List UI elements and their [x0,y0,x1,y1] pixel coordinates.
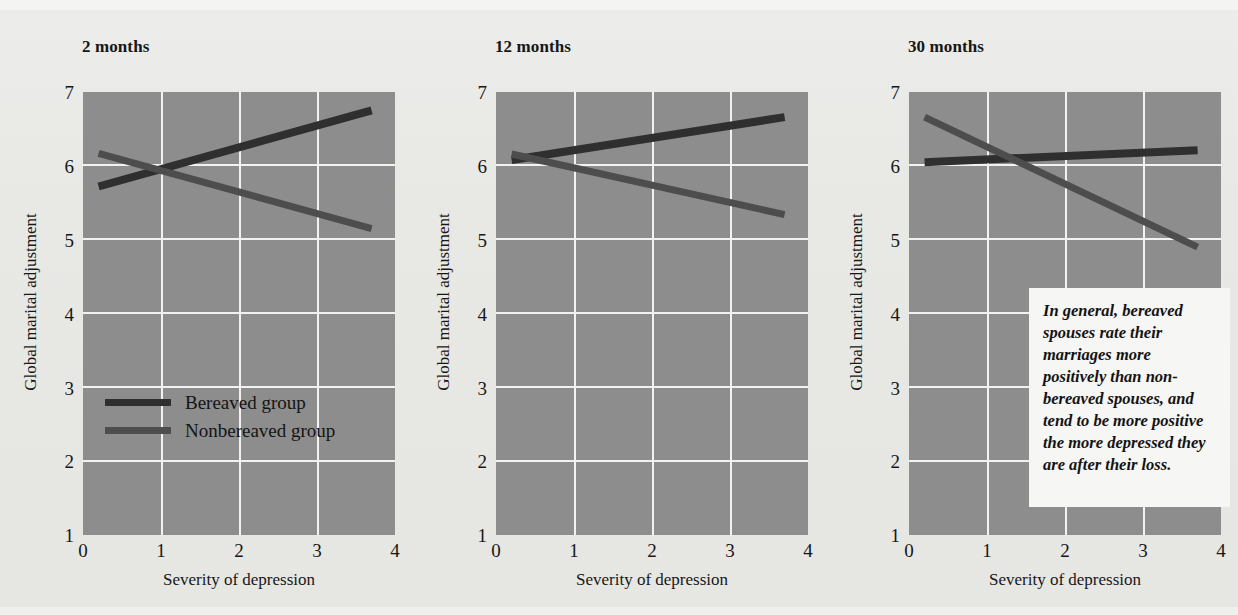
line-bereaved [99,110,372,186]
x-tick-1: 1 [972,541,1002,560]
line-nonbereaved [99,153,372,228]
y-tick-5: 5 [870,231,900,250]
legend-swatch-nonbereaved [105,427,171,434]
y-tick-6: 6 [457,157,487,176]
legend-label-nonbereaved: Nonbereaved group [185,421,335,440]
x-axis-label: Severity of depression [496,570,808,590]
legend: Bereaved group Nonbereaved group [105,388,335,444]
x-axis-label: Severity of depression [83,570,395,590]
y-tick-5: 5 [457,231,487,250]
y-tick-4: 4 [870,305,900,324]
series-lines [83,92,395,535]
x-tick-0: 0 [894,541,924,560]
series-lines [496,92,808,535]
panel-title: 30 months [908,37,984,57]
panel-title: 2 months [82,37,149,57]
x-axis-label: Severity of depression [909,570,1221,590]
line-nonbereaved [925,117,1198,247]
y-tick-2: 2 [457,452,487,471]
x-tick-4: 4 [380,541,410,560]
callout-text: In general, bereaved spouses rate their … [1043,300,1217,476]
x-tick-3: 3 [715,541,745,560]
callout-annotation: In general, bereaved spouses rate their … [1029,288,1230,507]
legend-swatch-bereaved [105,399,171,406]
x-tick-1: 1 [146,541,176,560]
x-tick-3: 3 [1128,541,1158,560]
x-tick-2: 2 [637,541,667,560]
y-tick-7: 7 [457,83,487,102]
y-tick-7: 7 [44,83,74,102]
y-axis-label: Global marital adjustment [434,197,454,407]
line-bereaved [925,150,1198,162]
y-tick-2: 2 [870,452,900,471]
x-tick-4: 4 [1206,541,1236,560]
y-tick-4: 4 [457,305,487,324]
page-bottom-margin [0,607,1238,615]
y-tick-3: 3 [870,379,900,398]
x-tick-3: 3 [302,541,332,560]
y-axis-label: Global marital adjustment [847,197,867,407]
line-bereaved [512,117,785,160]
x-tick-0: 0 [481,541,511,560]
figure-canvas: 2 months Global marital adjustment 7 6 5… [0,0,1238,615]
y-tick-5: 5 [44,231,74,250]
y-tick-6: 6 [44,157,74,176]
plot-area [496,92,808,535]
x-tick-2: 2 [224,541,254,560]
y-tick-3: 3 [457,379,487,398]
plot-area: Bereaved group Nonbereaved group [83,92,395,535]
panel-12-months: 12 months Global marital adjustment 7 6 … [413,0,826,615]
x-tick-4: 4 [793,541,823,560]
y-tick-2: 2 [44,452,74,471]
panel-2-months: 2 months Global marital adjustment 7 6 5… [0,0,413,615]
y-axis-label: Global marital adjustment [21,197,41,407]
x-tick-0: 0 [68,541,98,560]
x-tick-2: 2 [1050,541,1080,560]
y-tick-3: 3 [44,379,74,398]
y-tick-7: 7 [870,83,900,102]
legend-item-bereaved: Bereaved group [105,388,335,416]
y-tick-6: 6 [870,157,900,176]
line-nonbereaved [512,154,785,215]
legend-label-bereaved: Bereaved group [185,393,306,412]
legend-item-nonbereaved: Nonbereaved group [105,416,335,444]
panel-title: 12 months [495,37,571,57]
y-tick-4: 4 [44,305,74,324]
x-tick-1: 1 [559,541,589,560]
